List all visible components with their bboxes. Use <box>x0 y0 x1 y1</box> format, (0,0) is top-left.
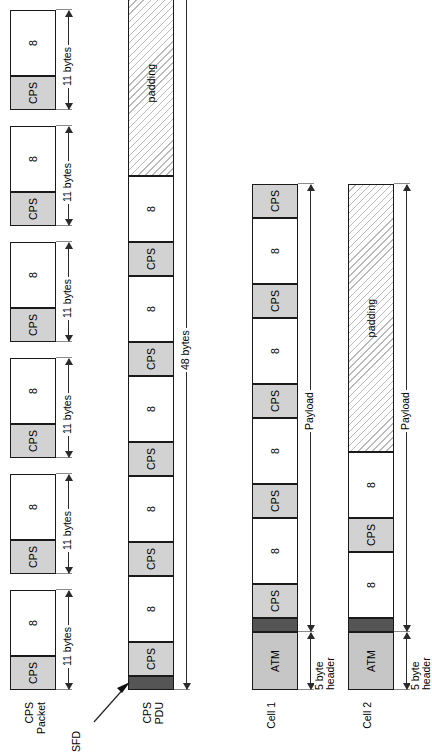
dimension-label-11-bytes: 11 bytes <box>61 625 73 668</box>
segment-cps-header: CPS <box>252 184 298 218</box>
segment-cps-header: CPS <box>10 192 56 226</box>
dimension-label-11-bytes: 11 bytes <box>61 45 73 88</box>
segment-payload: 8 <box>128 476 174 542</box>
row-label-cps-packet: CPS Packet <box>24 702 47 754</box>
segment-payload: 8 <box>348 552 394 618</box>
dimension-line-5-byte-header <box>310 633 311 689</box>
segment-cps-header: CPS <box>128 442 174 476</box>
segment-cps-header: CPS <box>128 342 174 376</box>
dimension-label-11-bytes: 11 bytes <box>61 393 73 436</box>
segment-payload: 8 <box>252 218 298 284</box>
dimension-label-11-bytes: 11 bytes <box>61 509 73 552</box>
segment-payload: 8 <box>10 126 56 192</box>
segment-payload: 8 <box>348 452 394 518</box>
segment-payload: 8 <box>128 276 174 342</box>
dimension-label-11-bytes: 11 bytes <box>61 277 73 320</box>
segment-cps-header: CPS <box>10 76 56 110</box>
segment-payload: 8 <box>10 590 56 656</box>
dimension-label-48-bytes: 48 bytes <box>179 328 191 372</box>
segment-payload: 8 <box>128 576 174 642</box>
segment-payload: 8 <box>252 318 298 384</box>
segment-padding: padding <box>348 184 394 452</box>
row-label-cps-pdu: CPS PDU <box>142 702 165 754</box>
segment-cps-header: CPS <box>10 424 56 458</box>
dimension-label-5-byte-header: 5 byte header <box>410 655 432 692</box>
segment-cps-header: CPS <box>10 540 56 574</box>
segment-atm-header: ATM <box>252 632 298 690</box>
segment-cps-header: CPS <box>252 384 298 418</box>
segment-sfd <box>348 618 394 632</box>
segment-cps-header: CPS <box>252 584 298 618</box>
row-cell-1: Cell 1 ATM CPS 8 CPS 8 CPS 8 CPS 8 CPS 5… <box>252 0 326 750</box>
row-label-cell-2: Cell 2 <box>362 702 374 754</box>
dimension-label-payload: Payload <box>303 390 315 432</box>
segment-cps-header: CPS <box>10 656 56 690</box>
segment-payload: 8 <box>252 518 298 584</box>
segment-payload: 8 <box>252 418 298 484</box>
dimension-label-5-byte-header: 5 byte header <box>314 655 336 692</box>
segment-payload: 8 <box>10 358 56 424</box>
row-cps-pdu: CPS PDU CPS 8 CPS 8 CPS 8 CPS 8 CPS 8 pa… <box>128 0 202 750</box>
segment-sfd <box>128 676 174 690</box>
row-cell-2: Cell 2 ATM 8 CPS 8 padding 5 byte header… <box>348 0 422 750</box>
dimension-line-5-byte-header <box>406 633 407 689</box>
segment-cps-header: CPS <box>128 542 174 576</box>
segment-cps-header: CPS <box>252 484 298 518</box>
sfd-callout <box>86 666 132 726</box>
segment-payload: 8 <box>128 176 174 242</box>
segment-cps-header: CPS <box>128 242 174 276</box>
segment-cps-header: CPS <box>252 284 298 318</box>
segment-atm-header: ATM <box>348 632 394 690</box>
segment-sfd <box>252 618 298 632</box>
row-label-cell-1: Cell 1 <box>266 702 278 754</box>
segment-payload: 8 <box>10 242 56 308</box>
segment-cps-header: CPS <box>348 518 394 552</box>
segment-payload: 8 <box>10 474 56 540</box>
segment-payload: 8 <box>128 376 174 442</box>
segment-cps-header: CPS <box>128 642 174 676</box>
segment-padding: padding <box>128 0 174 176</box>
sfd-callout-label: SFD <box>70 731 82 752</box>
segment-payload: 8 <box>10 10 56 76</box>
row-cps-packet: CPS Packet CPS 8 11 bytes CPS 8 <box>10 0 84 750</box>
dimension-label-11-bytes: 11 bytes <box>61 161 73 204</box>
segment-cps-header: CPS <box>10 308 56 342</box>
dimension-label-payload: Payload <box>399 390 411 432</box>
